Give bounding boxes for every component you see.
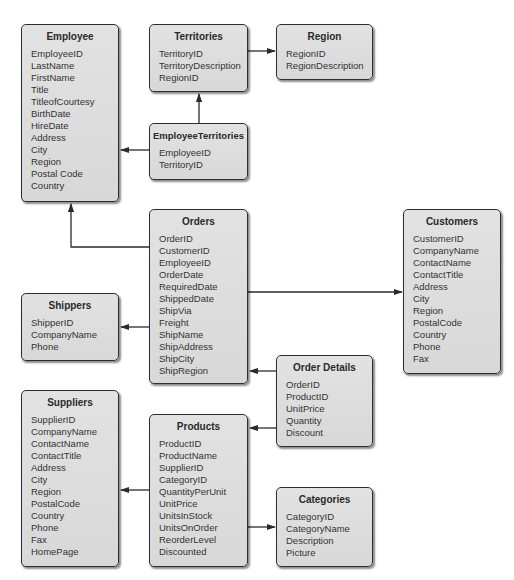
- entity-title: Suppliers: [22, 397, 118, 409]
- field: ShipperID: [31, 317, 118, 329]
- entity-title: Categories: [277, 494, 372, 506]
- field: EmployeeID: [159, 147, 247, 159]
- field: Country: [31, 180, 118, 192]
- field: FirstName: [31, 72, 118, 84]
- entity-employee-territories: EmployeeTerritories EmployeeID Territory…: [149, 123, 248, 180]
- field: Phone: [31, 341, 118, 353]
- field: OrderID: [286, 379, 372, 391]
- field: ReorderLevel: [159, 534, 247, 546]
- field: TerritoryDescription: [159, 60, 247, 72]
- field: OrderID: [159, 233, 247, 245]
- field: Country: [413, 329, 500, 341]
- field: CompanyName: [31, 329, 118, 341]
- field: QuantityPerUnit: [159, 486, 247, 498]
- entity-title: Shippers: [22, 300, 118, 312]
- field: City: [31, 144, 118, 156]
- field: TitleofCourtesy: [31, 96, 118, 108]
- field: Quantity: [286, 415, 372, 427]
- field: CustomerID: [159, 245, 247, 257]
- field: HomePage: [31, 546, 118, 558]
- field: CategoryName: [286, 523, 372, 535]
- entity-title: Customers: [404, 216, 500, 228]
- field: UnitPrice: [286, 403, 372, 415]
- field: ProductID: [159, 438, 247, 450]
- field: ProductName: [159, 450, 247, 462]
- field: Region: [413, 305, 500, 317]
- field-list: OrderID CustomerID EmployeeID OrderDate …: [159, 233, 247, 377]
- field: ContactTitle: [31, 450, 118, 462]
- field: Address: [413, 281, 500, 293]
- field: Phone: [31, 522, 118, 534]
- field: EmployeeID: [159, 257, 247, 269]
- field: Postal Code: [31, 168, 118, 180]
- field: PostalCode: [413, 317, 500, 329]
- field: PostalCode: [31, 498, 118, 510]
- field: Fax: [31, 534, 118, 546]
- entity-title: Order Details: [277, 362, 372, 374]
- field: ShipCity: [159, 353, 247, 365]
- entity-title: EmployeeTerritories: [150, 130, 247, 142]
- field: ShipName: [159, 329, 247, 341]
- field: TerritoryID: [159, 48, 247, 60]
- field-list: ProductID ProductName SupplierID Categor…: [159, 438, 247, 558]
- field-list: CategoryID CategoryName Description Pict…: [286, 511, 372, 559]
- field: SupplierID: [31, 414, 118, 426]
- entity-orders: Orders OrderID CustomerID EmployeeID Ord…: [149, 209, 248, 384]
- field: Country: [31, 510, 118, 522]
- field: UnitsOnOrder: [159, 522, 247, 534]
- field: RequiredDate: [159, 281, 247, 293]
- field: Region: [31, 156, 118, 168]
- field: CustomerID: [413, 233, 500, 245]
- field: Region: [31, 486, 118, 498]
- field: SupplierID: [159, 462, 247, 474]
- entity-title: Orders: [150, 216, 247, 228]
- field: RegionID: [286, 48, 372, 60]
- entity-products: Products ProductID ProductName SupplierI…: [149, 414, 248, 567]
- field: LastName: [31, 60, 118, 72]
- field: EmployeeID: [31, 48, 118, 60]
- field: Title: [31, 84, 118, 96]
- field: BirthDate: [31, 108, 118, 120]
- entity-suppliers: Suppliers SupplierID CompanyName Contact…: [21, 390, 119, 567]
- field: Address: [31, 132, 118, 144]
- field: RegionDescription: [286, 60, 372, 72]
- entity-order-details: Order Details OrderID ProductID UnitPric…: [276, 355, 373, 447]
- field: ShippedDate: [159, 293, 247, 305]
- field: ContactName: [31, 438, 118, 450]
- field: CompanyName: [31, 426, 118, 438]
- field-list: ShipperID CompanyName Phone: [31, 317, 118, 353]
- field: ContactName: [413, 257, 500, 269]
- field: Discounted: [159, 546, 247, 558]
- field: ShipAddress: [159, 341, 247, 353]
- field: City: [413, 293, 500, 305]
- field: Phone: [413, 341, 500, 353]
- field-list: CustomerID CompanyName ContactName Conta…: [413, 233, 500, 365]
- field-list: RegionID RegionDescription: [286, 48, 372, 72]
- field: Freight: [159, 317, 247, 329]
- field: TerritoryID: [159, 159, 247, 171]
- entity-employee: Employee EmployeeID LastName FirstName T…: [21, 24, 119, 202]
- field: Address: [31, 462, 118, 474]
- field-list: OrderID ProductID UnitPrice Quantity Dis…: [286, 379, 372, 439]
- field: CompanyName: [413, 245, 500, 257]
- field: Picture: [286, 547, 372, 559]
- field: ContactTitle: [413, 269, 500, 281]
- entity-customers: Customers CustomerID CompanyName Contact…: [403, 209, 501, 374]
- field: ShipRegion: [159, 365, 247, 377]
- field: ShipVia: [159, 305, 247, 317]
- field: UnitsInStock: [159, 510, 247, 522]
- field: OrderDate: [159, 269, 247, 281]
- field-list: EmployeeID TerritoryID: [159, 147, 247, 171]
- field: UnitPrice: [159, 498, 247, 510]
- entity-region: Region RegionID RegionDescription: [276, 24, 373, 80]
- entity-title: Products: [150, 421, 247, 433]
- connector-orders-employee: [71, 204, 149, 247]
- field: HireDate: [31, 120, 118, 132]
- field-list: TerritoryID TerritoryDescription RegionI…: [159, 48, 247, 84]
- entity-shippers: Shippers ShipperID CompanyName Phone: [21, 293, 119, 361]
- entity-title: Region: [277, 31, 372, 43]
- field: Discount: [286, 427, 372, 439]
- field: RegionID: [159, 72, 247, 84]
- field: Fax: [413, 353, 500, 365]
- field-list: EmployeeID LastName FirstName Title Titl…: [31, 48, 118, 192]
